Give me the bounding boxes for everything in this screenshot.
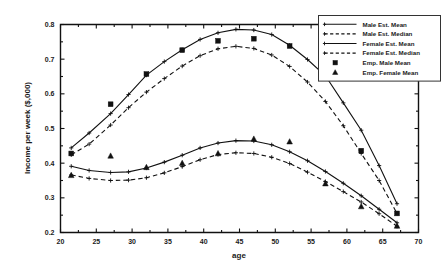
legend-item-label: Male Est. Median	[363, 30, 413, 37]
y-axis-title: Income per week ($,000)	[23, 82, 32, 174]
income-by-age-line-chart: 2025303540455055606570 0.20.30.40.50.60.…	[0, 0, 446, 269]
legend-item-label: Emp. Male Mean	[363, 59, 411, 66]
y-tick-label: 0.3	[45, 194, 55, 201]
x-tick-label: 50	[271, 238, 279, 245]
y-tick-label: 0.6	[45, 90, 55, 97]
y-tick-label: 0.4	[45, 160, 55, 167]
x-tick-label: 70	[415, 238, 423, 245]
empirical-male-point	[180, 48, 185, 53]
legend-square-icon	[333, 61, 337, 65]
empirical-male-point	[395, 211, 400, 216]
chart-legend: Male Est. MeanMale Est. MedianFemale Est…	[319, 16, 441, 82]
empirical-male-point	[359, 148, 364, 153]
empirical-male-point	[108, 102, 113, 107]
x-tick-label: 55	[307, 238, 315, 245]
empirical-male-point	[287, 44, 292, 49]
y-tick-label: 0.5	[45, 125, 55, 132]
chart-figure: 2025303540455055606570 0.20.30.40.50.60.…	[0, 0, 446, 269]
x-tick-label: 30	[128, 238, 136, 245]
x-tick-label: 20	[57, 238, 65, 245]
legend-item-label: Emp. Female Mean	[363, 69, 419, 76]
empirical-male-point	[69, 151, 74, 156]
empirical-male-point	[251, 36, 256, 41]
legend-item-label: Female Est. Mean	[363, 40, 415, 47]
x-tick-label: 60	[343, 238, 351, 245]
x-tick-label: 25	[92, 238, 100, 245]
x-tick-label: 40	[200, 238, 208, 245]
y-tick-label: 0.2	[45, 229, 55, 236]
legend-item-label: Male Est. Mean	[363, 21, 408, 28]
x-tick-label: 45	[236, 238, 244, 245]
y-tick-label: 0.7	[45, 56, 55, 63]
legend-item-label: Female Est. Median	[363, 49, 421, 56]
empirical-male-point	[144, 72, 149, 77]
x-tick-label: 65	[379, 238, 387, 245]
empirical-male-point	[216, 38, 221, 43]
x-axis-title: age	[232, 251, 246, 260]
x-tick-label: 35	[164, 238, 172, 245]
y-tick-label: 0.8	[45, 21, 55, 28]
